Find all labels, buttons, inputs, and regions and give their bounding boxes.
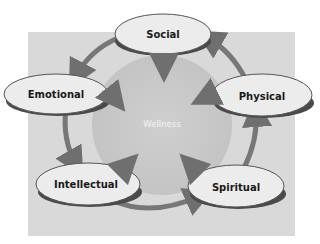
node-label-physical: Physical — [239, 91, 285, 102]
wellness-diagram: Wellness Social Physical Spiritual Intel… — [0, 0, 320, 244]
wellness-label: Wellness — [143, 119, 180, 129]
node-label-spiritual: Spiritual — [212, 182, 260, 193]
node-label-intellectual: Intellectual — [54, 179, 118, 190]
node-label-emotional: Emotional — [28, 89, 85, 100]
node-label-social: Social — [146, 29, 180, 40]
